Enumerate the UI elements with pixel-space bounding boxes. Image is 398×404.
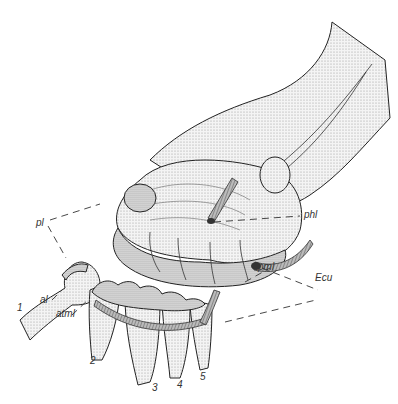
leader-pl-2 (48, 226, 66, 258)
metacarpal-1 (20, 262, 100, 340)
digit-2: 2 (89, 355, 96, 366)
label-ecu: Ecu (315, 272, 333, 283)
label-al: al (40, 294, 49, 305)
leader-ecu-2 (225, 300, 316, 322)
hamate-process (260, 157, 290, 193)
pisiform (124, 184, 156, 212)
label-pml: pml (257, 261, 275, 272)
anatomical-illustration: pl phl pml Ecu al atml 1 2 3 4 5 (0, 0, 398, 404)
digit-5: 5 (200, 371, 206, 382)
tendon-phl-end (207, 218, 215, 224)
label-phl: phl (303, 209, 318, 220)
label-pl: pl (35, 217, 45, 228)
digit-1: 1 (17, 302, 23, 313)
digit-3: 3 (152, 382, 158, 393)
label-atml: atml (56, 308, 76, 319)
digit-4: 4 (177, 379, 183, 390)
leader-pl-1 (50, 204, 100, 220)
